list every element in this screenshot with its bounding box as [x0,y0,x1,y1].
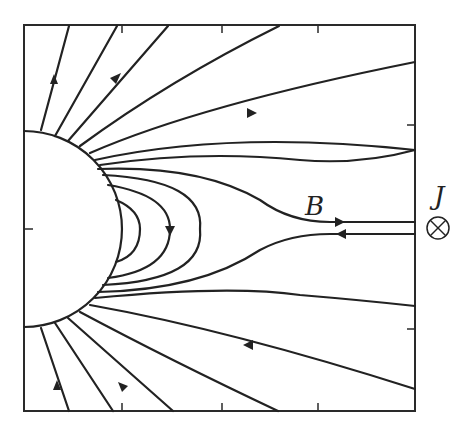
field-lines-upper [41,26,415,165]
field-lines-lower [41,291,415,411]
current-label-J: J [429,181,446,211]
plot-frame [24,25,415,411]
field-loops [103,175,200,285]
field-lines-sheet [98,169,415,292]
current-into-page-icon [427,217,449,239]
field-label-B: B [304,191,324,221]
field-line-diagram: B J [0,0,471,447]
axis-ticks [24,25,415,411]
field-direction-arrows [50,73,346,392]
